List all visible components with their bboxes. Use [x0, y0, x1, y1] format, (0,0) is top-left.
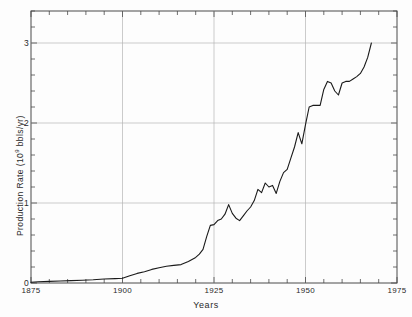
- x-tick-label-1925: 1925: [205, 286, 224, 295]
- gridlines: [31, 11, 397, 283]
- y-tick-label-1: 1: [24, 198, 29, 208]
- chart-plot-area: [0, 0, 412, 317]
- x-tick-label-1950: 1950: [296, 286, 315, 295]
- y-axis-label: Production Rate (109 bbls/yr): [14, 115, 25, 236]
- x-tick-label-1975: 1975: [388, 286, 407, 295]
- chart-figure: Production Rate (109 bbls/yr) 1875190019…: [0, 0, 412, 317]
- y-tick-label-2: 2: [24, 118, 29, 128]
- y-axis-label-prefix: Production Rate (10: [15, 153, 25, 236]
- y-axis-label-wrapper: Production Rate (109 bbls/yr): [0, 0, 22, 290]
- y-tick-label-3: 3: [24, 38, 29, 48]
- y-tick-label-0: 0: [24, 278, 29, 288]
- y-axis-label-exponent: 9: [14, 149, 20, 153]
- x-tick-label-1900: 1900: [113, 286, 132, 295]
- x-axis-label: Years: [0, 300, 412, 310]
- data-series-line: [31, 43, 371, 282]
